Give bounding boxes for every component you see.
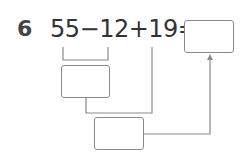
- arrow-up-icon: [207, 54, 213, 60]
- step1-answer-box[interactable]: [61, 65, 110, 98]
- result-answer-box[interactable]: [184, 20, 234, 53]
- step2-answer-box[interactable]: [94, 117, 144, 150]
